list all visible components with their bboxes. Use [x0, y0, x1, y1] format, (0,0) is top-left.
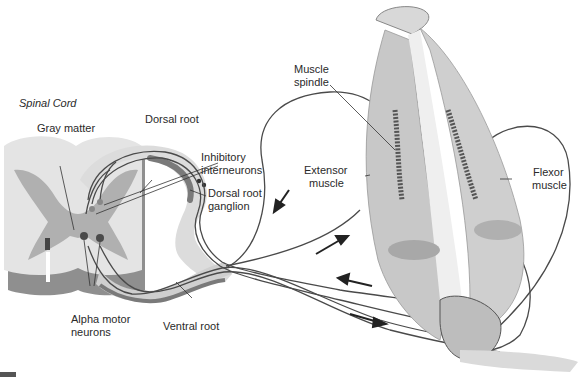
corner-mark: [0, 372, 16, 377]
inhibitory-interneurons-label-1: Inhibitory: [201, 151, 246, 164]
extensor-muscle-label-1: Extensor: [304, 164, 347, 177]
dorsal-root-ganglion-label-1: Dorsal root: [208, 187, 262, 200]
ventral-root-label: Ventral root: [163, 320, 219, 333]
alpha-motor-neurons-label-1: Alpha motor: [71, 313, 130, 326]
dorsal-root-label: Dorsal root: [145, 113, 199, 126]
dorsal-root-ganglion-label-2: ganglion: [208, 200, 250, 213]
flexor-muscle-label-2: muscle: [532, 179, 567, 192]
extensor-muscle-label-2: muscle: [309, 177, 344, 190]
muscle-spindle-label-1: Muscle: [294, 63, 329, 76]
gray-matter-label: Gray matter: [37, 122, 95, 135]
alpha-motor-neurons-label-2: neurons: [71, 326, 111, 339]
inhibitory-interneurons-label-2: interneurons: [201, 164, 262, 177]
muscle-spindle-label-2: spindle: [294, 76, 329, 89]
spinal-cord-title: Spinal Cord: [19, 97, 76, 110]
flexor-muscle-label-1: Flexor: [533, 166, 564, 179]
